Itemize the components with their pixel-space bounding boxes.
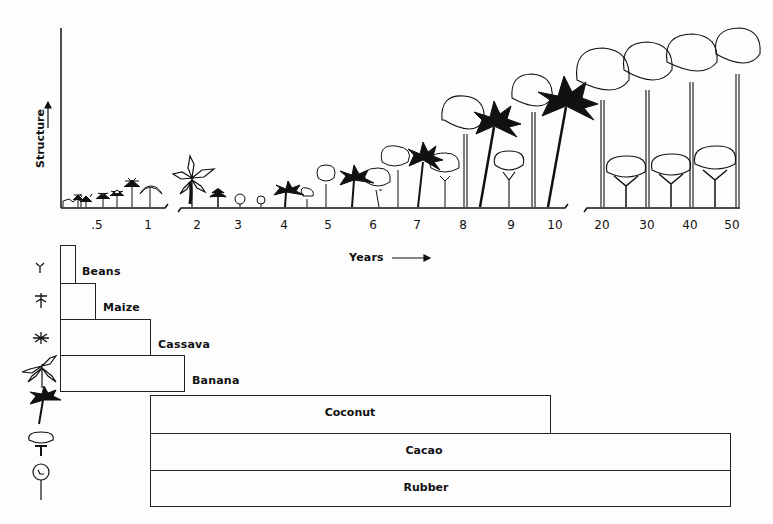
bar-banana	[60, 355, 185, 392]
bar-label-banana: Banana	[192, 374, 240, 387]
bar-label-beans: Beans	[82, 265, 121, 278]
arrow-right-icon	[392, 255, 430, 261]
x-tick-label: 7	[413, 218, 421, 232]
early-crops-cluster-icon	[63, 178, 162, 207]
x-tick-label: 30	[639, 218, 654, 232]
bar-label-maize: Maize	[103, 301, 140, 314]
cacao-seedling-icon	[235, 194, 265, 207]
cacao-tree-icon	[29, 432, 54, 456]
x-tick-label: 40	[682, 218, 697, 232]
coconut-palm-icon	[474, 76, 598, 207]
cassava-plant-icon	[210, 189, 226, 207]
x-tick-label: 50	[724, 218, 739, 232]
x-tick-label: 1	[144, 218, 152, 232]
mature-cacao-tree-icon	[606, 146, 735, 207]
bar-label-coconut: Coconut	[325, 406, 376, 419]
x-tick-label: 4	[280, 218, 288, 232]
x-axis-line	[61, 204, 740, 212]
bar-label-cassava: Cassava	[158, 338, 210, 351]
coconut-palm-icon	[30, 386, 61, 424]
x-axis-label: Years	[349, 251, 384, 264]
x-tick-label: 8	[459, 218, 467, 232]
x-tick-label: 9	[507, 218, 515, 232]
banana-plant-icon	[22, 356, 56, 388]
bar-beans	[60, 245, 76, 284]
y-axis-label: Structure	[34, 109, 47, 168]
mature-rubber-tree-icon	[577, 28, 761, 207]
bean-sprout-icon	[36, 263, 44, 273]
young-coconut-palm-icon	[274, 142, 443, 207]
rubber-tree-icon	[33, 464, 49, 500]
cacao-tree-icon	[494, 151, 523, 207]
x-tick-label: 2	[193, 218, 201, 232]
x-tick-label: 5	[324, 218, 332, 232]
x-tick-label: .5	[91, 218, 102, 232]
bar-cassava	[60, 319, 151, 356]
maize-icon	[35, 293, 47, 308]
rubber-tree-icon	[442, 74, 552, 207]
young-tree-icon	[301, 146, 459, 207]
bar-maize	[60, 283, 96, 320]
x-tick-label: 6	[369, 218, 377, 232]
x-tick-label: 3	[234, 218, 242, 232]
x-tick-label: 10	[547, 218, 562, 232]
bar-label-rubber: Rubber	[404, 481, 449, 494]
bar-label-cacao: Cacao	[406, 444, 443, 457]
x-tick-label: 20	[594, 218, 609, 232]
banana-plant-icon	[173, 156, 214, 207]
cassava-icon	[33, 332, 49, 344]
